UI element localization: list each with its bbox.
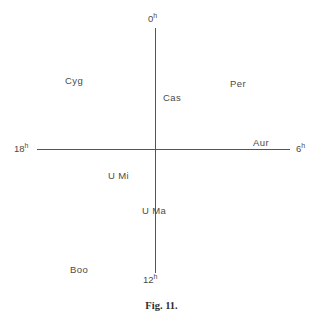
hour-label-18h-unit: h: [25, 142, 29, 149]
constellation-label-boo: Boo: [70, 265, 88, 275]
hour-label-18h-number: 18: [14, 143, 25, 154]
hour-label-12h-unit: h: [154, 273, 158, 280]
constellation-label-uma: U Ma: [142, 206, 166, 216]
constellation-label-per: Per: [230, 79, 246, 89]
hour-label-12h-number: 12: [143, 274, 154, 285]
constellation-label-aur: Aur: [253, 138, 269, 148]
hour-label-18h: 18h: [14, 144, 28, 154]
constellation-label-cas: Cas: [163, 93, 181, 103]
hour-label-6h-unit: h: [301, 142, 305, 149]
hour-label-0h: 0h: [148, 14, 157, 24]
hour-label-12h: 12h: [143, 275, 157, 285]
horizontal-axis-line: [37, 149, 290, 150]
hour-label-0h-unit: h: [153, 12, 157, 19]
figure-caption: Fig. 11.: [0, 300, 323, 311]
vertical-axis-line: [155, 28, 156, 273]
constellation-label-umi: U Mi: [108, 171, 129, 181]
hour-label-6h: 6h: [296, 144, 305, 154]
celestial-hour-angle-diagram: 0h 6h 12h 18h Cyg Cas Per Aur U Mi U Ma …: [0, 0, 323, 322]
constellation-label-cyg: Cyg: [65, 76, 83, 86]
